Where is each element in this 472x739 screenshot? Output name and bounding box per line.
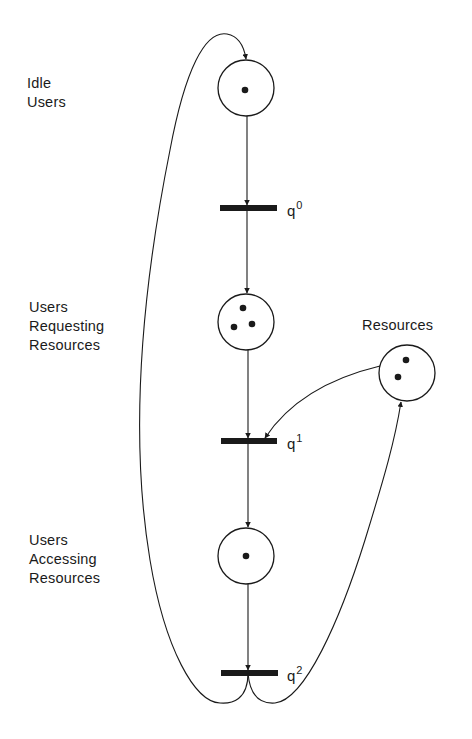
label-line: Resources: [29, 336, 104, 355]
token: [243, 553, 250, 560]
token: [240, 305, 247, 312]
transition-sup: 2: [296, 664, 302, 676]
label-q1: q1: [287, 432, 302, 452]
token: [231, 324, 238, 331]
label-q2: q2: [287, 664, 302, 684]
label-idle-users: Idle Users: [27, 74, 66, 112]
arc-resources-to-q1: [265, 366, 380, 438]
place-users-requesting: [218, 294, 274, 350]
label-resources: Resources: [362, 316, 433, 335]
token: [395, 374, 402, 381]
label-users-requesting: Users Requesting Resources: [29, 298, 104, 355]
transition-sup: 1: [296, 432, 302, 444]
place-idle-users: [218, 60, 274, 116]
arc-q2-to-idle: [140, 34, 248, 703]
transition-sup: 0: [296, 199, 302, 211]
label-line: Resources: [29, 569, 100, 588]
label-line: Users: [29, 298, 104, 317]
transition-base: q: [287, 435, 295, 452]
label-users-accessing: Users Accessing Resources: [29, 531, 100, 588]
token: [403, 357, 410, 364]
place-users-accessing: [218, 528, 274, 584]
transition-base: q: [287, 202, 295, 219]
transition-q1: [221, 438, 277, 444]
token: [249, 321, 256, 328]
arc-q2-to-resources: [248, 402, 401, 703]
label-line: Resources: [362, 316, 433, 335]
label-q0: q0: [287, 199, 302, 219]
place-resources: [379, 345, 435, 401]
label-line: Idle: [27, 74, 66, 93]
transition-q2: [221, 670, 278, 676]
petri-net-diagram: [0, 0, 472, 739]
label-line: Accessing: [29, 550, 100, 569]
transition-base: q: [287, 667, 295, 684]
label-line: Users: [27, 93, 66, 112]
label-line: Requesting: [29, 317, 104, 336]
label-line: Users: [29, 531, 100, 550]
token: [242, 87, 249, 94]
transition-q0: [220, 205, 277, 211]
